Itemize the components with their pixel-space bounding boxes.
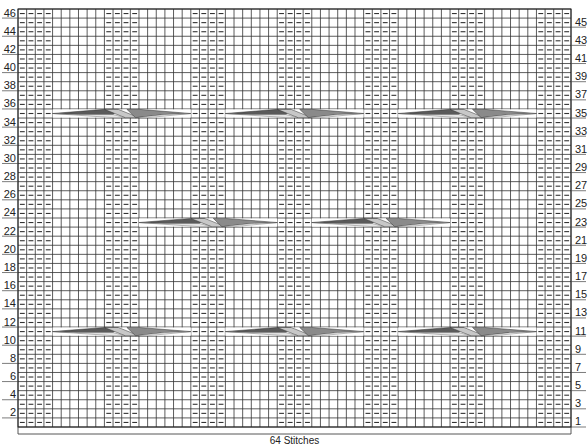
stitch-count-label: 64 Stitches <box>18 435 571 446</box>
row-label-left: 20 <box>1 244 16 255</box>
row-label-right: 25 <box>575 198 587 209</box>
row-label-right: 29 <box>575 162 587 173</box>
row-label-right: 13 <box>575 307 587 318</box>
row-label-right: 1 <box>575 416 581 427</box>
row-label-right: 43 <box>575 35 587 46</box>
row-label-right: 33 <box>575 126 587 137</box>
row-label-left: 16 <box>1 280 16 291</box>
row-label-left: 10 <box>1 335 16 346</box>
row-label-left: 4 <box>1 389 16 400</box>
row-label-right: 41 <box>575 53 587 64</box>
row-label-right: 3 <box>575 398 581 409</box>
row-label-right: 9 <box>575 344 581 355</box>
cable-icon <box>225 327 363 335</box>
row-label-right: 31 <box>575 144 587 155</box>
row-label-left: 24 <box>1 207 16 218</box>
row-label-right: 45 <box>575 17 587 28</box>
row-label-right: 23 <box>575 217 587 228</box>
row-label-right: 19 <box>575 253 587 264</box>
cable-icon <box>53 327 191 335</box>
row-label-right: 17 <box>575 271 587 282</box>
row-label-right: 37 <box>575 89 587 100</box>
row-label-left: 12 <box>1 317 16 328</box>
row-label-left: 26 <box>1 189 16 200</box>
cable-icon <box>139 218 277 226</box>
row-label-left: 40 <box>1 62 16 73</box>
row-label-left: 28 <box>1 171 16 182</box>
row-label-right: 11 <box>575 326 586 337</box>
row-label-right: 39 <box>575 71 587 82</box>
row-label-left: 6 <box>1 371 16 382</box>
row-label-right: 15 <box>575 289 587 300</box>
row-label-left: 32 <box>1 135 16 146</box>
row-label-left: 38 <box>1 80 16 91</box>
row-label-left: 36 <box>1 98 16 109</box>
cable-icon <box>53 109 191 117</box>
grid-lines <box>18 9 571 427</box>
cable-icon <box>225 109 363 117</box>
row-label-left: 2 <box>1 407 16 418</box>
cable-icon <box>312 218 450 226</box>
row-label-right: 35 <box>575 108 587 119</box>
row-label-right: 27 <box>575 180 587 191</box>
row-label-left: 44 <box>1 26 16 37</box>
cable-icon <box>398 327 536 335</box>
row-label-left: 14 <box>1 298 16 309</box>
knitting-chart-grid <box>0 0 588 447</box>
row-label-right: 21 <box>575 235 587 246</box>
cable-icon <box>398 109 536 117</box>
row-label-left: 18 <box>1 262 16 273</box>
row-label-left: 46 <box>1 8 16 19</box>
row-label-right: 7 <box>575 362 581 373</box>
row-label-left: 22 <box>1 226 16 237</box>
row-label-left: 42 <box>1 44 16 55</box>
row-label-left: 34 <box>1 117 16 128</box>
row-label-left: 30 <box>1 153 16 164</box>
stitch-bracket <box>18 427 571 434</box>
row-label-right: 5 <box>575 380 581 391</box>
row-label-left: 8 <box>1 353 16 364</box>
